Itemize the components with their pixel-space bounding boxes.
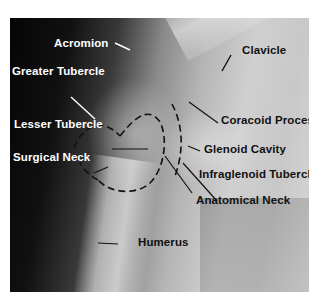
humeral-head-outline xyxy=(98,114,164,191)
label-coracoid-process: Coracoid Process xyxy=(221,114,309,126)
label-acromion: Acromion xyxy=(54,37,108,49)
label-clavicle: Clavicle xyxy=(242,44,286,56)
label-surgical-neck: Surgical Neck xyxy=(13,151,90,163)
label-anatomical-neck: Anatomical Neck xyxy=(196,194,290,206)
label-greater-tubercle: Greater Tubercle xyxy=(12,65,105,77)
label-humerus: Humerus xyxy=(138,236,189,248)
label-lesser-tubercle: Lesser Tubercle xyxy=(14,118,103,130)
label-glenoid-cavity: Glenoid Cavity xyxy=(204,143,286,155)
label-infraglenoid-tubercle: Infraglenoid Tubercle xyxy=(199,168,309,180)
xray-image: Acromion Greater Tubercle Lesser Tubercl… xyxy=(10,18,309,292)
glenoid-outline xyxy=(172,104,181,176)
